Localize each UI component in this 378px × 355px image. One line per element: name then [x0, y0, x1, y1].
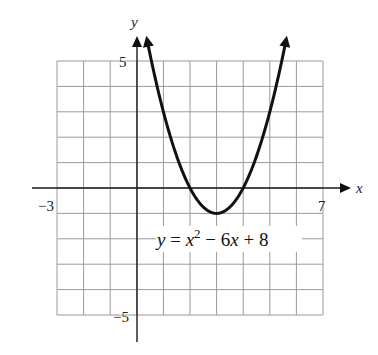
y-axis-label: y [129, 14, 138, 30]
y-axis-arrow-icon [132, 36, 142, 47]
curve-right-arrow-icon [279, 36, 290, 48]
y-min-tick-label: −5 [113, 309, 129, 325]
y-max-tick-label: 5 [119, 54, 127, 70]
equation-label: y = x2 − 6x + 8 [155, 226, 268, 250]
equation-rest-2: + 8 [239, 229, 269, 250]
equation-rest-1: − 6 [201, 229, 231, 250]
equation-equals: = [165, 229, 185, 250]
curve-left-arrow-icon [143, 36, 154, 48]
x-min-tick-label: −3 [38, 198, 54, 214]
x-axis-label: x [355, 180, 363, 196]
x-axis-arrow-icon [340, 183, 351, 193]
parabola-chart: y x 5 −5 −3 7 y = x2 − 6x + 8 [0, 0, 378, 355]
equation-lhs: y [155, 229, 166, 250]
x-max-tick-label: 7 [318, 198, 326, 214]
